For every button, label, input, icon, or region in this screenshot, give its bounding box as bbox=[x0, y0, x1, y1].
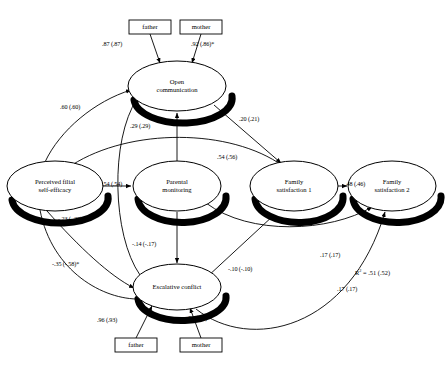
coef-mother-to-open-communication: .92 (.86)* bbox=[191, 40, 214, 47]
r-squared-value: = .51 (.52) bbox=[361, 269, 390, 276]
path-mother-top-to-open-communication bbox=[192, 34, 201, 63]
coef-escalative-conflict-to-family-satisfaction-2: .17 (.17) bbox=[337, 285, 357, 292]
box-mother-bottom bbox=[180, 338, 222, 352]
path-self-efficacy-to-open-communication bbox=[45, 90, 131, 162]
node-escalative-conflict bbox=[133, 264, 221, 310]
coef-parental-monitoring-to-family-satisfaction-2: .17 (.17) bbox=[320, 251, 340, 258]
coef-parental-monitoring-to-escalative-conflict: -.14 (-.17) bbox=[132, 240, 156, 247]
path-diagram-figure: Open communication Perceived filial self… bbox=[0, 0, 445, 365]
node-family-satisfaction-1 bbox=[250, 161, 338, 211]
coef-parental-monitoring-to-family-satisfaction-1: .54 (.56) bbox=[217, 153, 237, 160]
coef-self-efficacy-to-escalative-conflict-upper: -.23 (-.28) bbox=[58, 215, 82, 222]
coef-self-efficacy-to-open-communication: .60 (.60) bbox=[60, 103, 80, 110]
path-father-top-to-open-communication bbox=[150, 34, 160, 63]
coef-mother-to-escalative-conflict: .93 (.88)* bbox=[187, 314, 210, 321]
node-open-communication bbox=[128, 61, 226, 111]
box-father-bottom bbox=[115, 338, 157, 352]
box-mother-top bbox=[180, 20, 222, 34]
diagram-graphics bbox=[0, 0, 445, 365]
coef-father-to-open-communication: .87 (.87) bbox=[102, 40, 122, 47]
coef-escalative-conflict-to-open-communication: .29 (.29) bbox=[130, 122, 150, 129]
coef-self-efficacy-to-parental-monitoring: .54 (.54) bbox=[102, 180, 122, 187]
coef-family-satisfaction-1-to-family-satisfaction-2: .48 (.46) bbox=[345, 180, 365, 187]
r-squared-annotation: R2 = .51 (.52) bbox=[355, 268, 390, 276]
coef-escalative-conflict-to-family-satisfaction-1: -.10 (-.10) bbox=[228, 265, 252, 272]
node-parental-monitoring bbox=[133, 161, 221, 211]
node-perceived-filial-self-efficacy bbox=[7, 161, 103, 211]
coef-self-efficacy-to-escalative-conflict-lower: -.35 (-.58)* bbox=[52, 260, 79, 267]
coef-open-communication-to-family-satisfaction-1: .20 (.21) bbox=[239, 115, 259, 122]
coef-father-to-escalative-conflict: .96 (.93) bbox=[97, 316, 117, 323]
box-father-top bbox=[129, 20, 171, 34]
